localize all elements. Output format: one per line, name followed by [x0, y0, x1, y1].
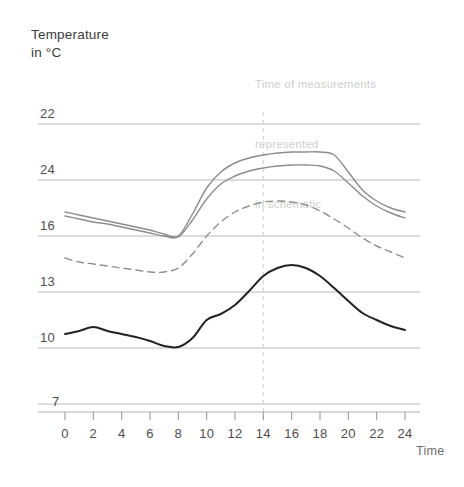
x-tick-label: 22: [369, 426, 384, 441]
series-dashed-curve: [65, 201, 405, 272]
x-tick-label: 20: [341, 426, 356, 441]
y-tick-label: 10: [40, 330, 55, 345]
y-tick-label: 24: [40, 162, 55, 177]
x-tick-label: 0: [61, 426, 69, 441]
x-tick-label: 4: [118, 426, 126, 441]
x-tick-label: 12: [227, 426, 242, 441]
x-tick-label: 2: [90, 426, 98, 441]
series-black-curve: [65, 265, 405, 348]
x-tick-label: 10: [199, 426, 214, 441]
series-upper-grey-curve: [65, 152, 405, 237]
x-tick-label: 18: [312, 426, 327, 441]
temperature-chart: Temperature in °C Time of measurements r…: [0, 0, 464, 487]
y-tick-label-bottom: 7: [52, 394, 60, 409]
x-tick-label: 8: [175, 426, 183, 441]
x-axis: [38, 412, 420, 420]
x-tick-label: 16: [284, 426, 299, 441]
y-tick-label: 16: [40, 218, 55, 233]
y-axis-tick-labels: 222416131077: [40, 106, 60, 409]
data-series: [65, 152, 405, 348]
x-axis-label: Time: [416, 444, 445, 458]
x-tick-label: 6: [146, 426, 154, 441]
y-tick-label: 13: [40, 274, 55, 289]
x-tick-label: 24: [397, 426, 412, 441]
x-tick-label: 14: [256, 426, 271, 441]
chart-canvas: 222416131077 024681012141618202224 Time: [0, 0, 464, 487]
series-lower-grey-curve: [65, 165, 405, 238]
x-axis-tick-labels: 024681012141618202224: [61, 426, 412, 441]
y-tick-label: 22: [40, 106, 55, 121]
